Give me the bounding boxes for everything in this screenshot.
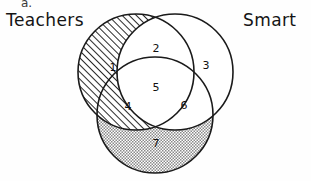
venn-diagram-page: a. [0, 0, 311, 181]
set-label-teachers: Teachers [6, 10, 84, 30]
set-label-smart: Smart [243, 10, 296, 30]
